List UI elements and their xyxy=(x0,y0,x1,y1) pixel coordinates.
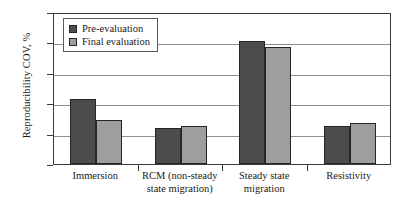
gridline xyxy=(54,105,390,106)
gridline xyxy=(54,75,390,76)
bar-pre-evaluation xyxy=(324,126,350,164)
x-axis-tick-label-line: migration xyxy=(204,183,324,196)
x-axis-tick-label: Resistivity xyxy=(289,170,409,183)
legend-item-pre-evaluation: Pre-evaluation xyxy=(69,22,150,35)
bar-chart-figure: Reproducibility COV, % 020406080100 Imme… xyxy=(0,0,411,203)
x-axis-tick-label-line: Resistivity xyxy=(289,170,409,183)
bar-pre-evaluation xyxy=(70,99,96,164)
bar-final-evaluation xyxy=(96,120,122,164)
legend-label-final-evaluation: Final evaluation xyxy=(82,36,150,47)
legend-swatch-icon-pre-evaluation xyxy=(69,25,77,33)
bar-pre-evaluation xyxy=(239,41,265,164)
legend-item-final-evaluation: Final evaluation xyxy=(69,35,150,48)
bar-pre-evaluation xyxy=(155,128,181,164)
bar-final-evaluation xyxy=(265,47,291,164)
legend-swatch-icon-final-evaluation xyxy=(69,38,77,46)
bar-final-evaluation xyxy=(350,123,376,164)
y-axis-tick-mark xyxy=(47,165,53,166)
legend: Pre-evaluation Final evaluation xyxy=(63,18,158,52)
legend-label-pre-evaluation: Pre-evaluation xyxy=(82,23,143,34)
bar-final-evaluation xyxy=(181,126,207,164)
y-axis-title: Reproducibility COV, % xyxy=(21,6,32,166)
